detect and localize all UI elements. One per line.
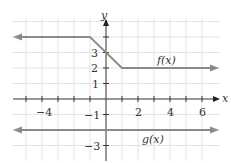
x-axis <box>13 96 216 102</box>
arrow-left-icon <box>13 34 22 41</box>
chart: y x −4 2 4 6 3 2 1 −1 −3 f(x) g(x) <box>0 0 231 163</box>
x-tick-label: 2 <box>135 106 142 119</box>
y-tick-label: −1 <box>84 109 100 122</box>
arrow-right-icon <box>210 127 219 134</box>
x-tick-label: 6 <box>199 106 206 119</box>
arrow-left-icon <box>13 127 22 134</box>
y-tick-label: 1 <box>92 78 99 91</box>
x-tick-label: −4 <box>36 106 52 119</box>
y-tick-label: 3 <box>91 47 98 60</box>
y-axis <box>103 20 109 161</box>
x-tick-label: 4 <box>167 106 174 119</box>
arrow-right-icon <box>210 65 219 72</box>
x-axis-label: x <box>222 92 229 105</box>
y-tick-label: 2 <box>91 62 98 75</box>
grid <box>12 18 220 161</box>
x-axis-arrow-icon <box>213 96 220 102</box>
y-tick-label: −3 <box>84 140 100 153</box>
y-axis-label: y <box>100 9 108 22</box>
series-g <box>13 127 219 134</box>
f-label: f(x) <box>156 54 176 67</box>
g-label: g(x) <box>142 133 164 146</box>
